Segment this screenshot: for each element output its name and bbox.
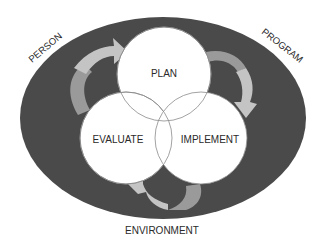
plan-label: PLAN — [151, 68, 177, 79]
environment-label: ENVIRONMENT — [125, 225, 199, 236]
cycle-diagram: PLAN EVALUATE IMPLEMENT PERSON PROGRAM E… — [0, 0, 328, 247]
implement-label: IMPLEMENT — [181, 134, 239, 145]
evaluate-label: EVALUATE — [93, 134, 144, 145]
